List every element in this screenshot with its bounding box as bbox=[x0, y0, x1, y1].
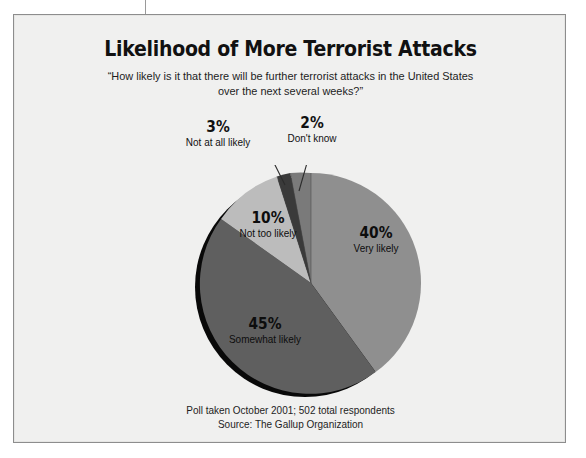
pie-chart-svg bbox=[186, 165, 436, 405]
callout-not-at-all-likely: 3% Not at all likely bbox=[163, 119, 273, 149]
chart-subtitle-line-1: “How likely is it that there will be fur… bbox=[108, 70, 474, 82]
callout-dont-know-value: 2% bbox=[270, 115, 355, 132]
pie-label-not-too-likely: 10% Not too likely bbox=[216, 210, 320, 240]
pie-label-somewhat-likely: 45% Somewhat likely bbox=[204, 316, 326, 346]
footer-source: Source: The Gallup Organization bbox=[218, 418, 363, 430]
callout-not-at-all-likely-label: Not at all likely bbox=[166, 136, 271, 149]
chart-subtitle: “How likely is it that there will be fur… bbox=[66, 69, 515, 99]
chart-subtitle-line-2: over the next several weeks?” bbox=[218, 85, 363, 97]
pie-label-not-too-likely-text: Not too likely bbox=[219, 227, 318, 240]
chart-panel: Likelihood of More Terrorist Attacks “Ho… bbox=[13, 14, 566, 443]
callout-dont-know: 2% Don't know bbox=[266, 115, 358, 145]
page-title: Likelihood of More Terrorist Attacks bbox=[42, 37, 540, 61]
callout-not-at-all-likely-value: 3% bbox=[167, 119, 268, 136]
pie-slices bbox=[200, 173, 421, 394]
pie-label-very-likely-value: 40% bbox=[334, 225, 419, 242]
footer-poll-info: Poll taken October 2001; 502 total respo… bbox=[186, 404, 395, 416]
pie-label-very-likely: 40% Very likely bbox=[330, 225, 422, 255]
pie-label-somewhat-likely-text: Somewhat likely bbox=[207, 333, 323, 346]
pie-label-somewhat-likely-value: 45% bbox=[209, 316, 321, 333]
pie-chart: 10% Not too likely 40% Very likely 45% S… bbox=[186, 165, 436, 405]
callout-dont-know-label: Don't know bbox=[268, 132, 355, 145]
pie-label-not-too-likely-value: 10% bbox=[220, 210, 316, 227]
pie-label-very-likely-text: Very likely bbox=[332, 242, 419, 255]
chart-page: Likelihood of More Terrorist Attacks “Ho… bbox=[0, 0, 586, 458]
chart-footer: Poll taken October 2001; 502 total respo… bbox=[28, 403, 553, 431]
